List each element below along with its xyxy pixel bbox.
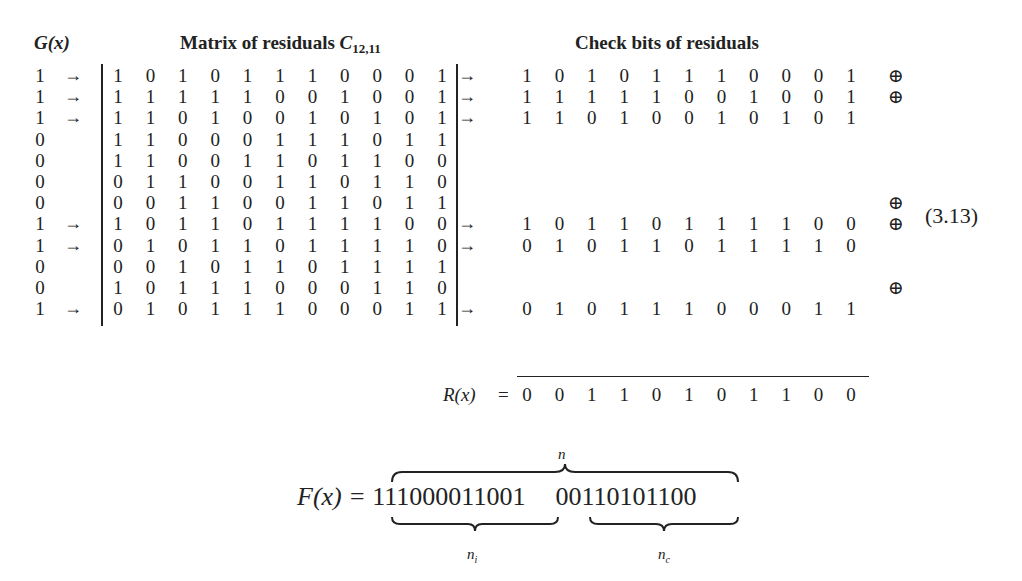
check-bit: 0 [841, 235, 861, 256]
check-bit: 1 [549, 298, 569, 319]
matrix-cell: 0 [238, 192, 258, 213]
matrix-cell: 1 [400, 277, 420, 298]
check-bit: 1 [841, 65, 861, 86]
header-check: Check bits of residuals [575, 32, 759, 54]
check-bit: 1 [809, 235, 829, 256]
matrix-cell: 0 [173, 129, 193, 150]
table-row: 1→11111001001→11111001001⊕ [0, 86, 1022, 107]
matrix-cell: 1 [108, 86, 128, 107]
matrix-cell: 0 [400, 65, 420, 86]
maps-to-arrow-icon: → [458, 86, 476, 107]
check-bit: 1 [679, 65, 699, 86]
check-bit: 1 [614, 107, 634, 128]
result-bit: 1 [744, 384, 764, 405]
check-bit: 1 [647, 86, 667, 107]
matrix-symbol: C [340, 32, 353, 53]
matrix-cell: 1 [335, 129, 355, 150]
check-bit: 0 [582, 235, 602, 256]
matrix-cell: 1 [238, 235, 258, 256]
check-bit: 0 [711, 298, 731, 319]
matrix-cell: 0 [108, 298, 128, 319]
matrix-cell: 1 [238, 277, 258, 298]
matrix-cell: 0 [140, 65, 160, 86]
matrix-cell: 1 [140, 150, 160, 171]
result-bit: 1 [582, 384, 602, 405]
matrix-cell: 0 [270, 277, 290, 298]
matrix-cell: 0 [432, 150, 452, 171]
matrix-cell: 1 [367, 277, 387, 298]
result-bit: 1 [614, 384, 634, 405]
check-bit: 1 [582, 86, 602, 107]
matrix-cell: 0 [335, 107, 355, 128]
check-bit: 0 [679, 86, 699, 107]
nc-n: n [658, 546, 666, 562]
matrix-cell: 0 [400, 86, 420, 107]
matrix-cell: 1 [108, 150, 128, 171]
check-bit: 0 [679, 107, 699, 128]
matrix-cell: 1 [108, 213, 128, 234]
matrix-cell: 0 [108, 235, 128, 256]
check-bit: 0 [809, 65, 829, 86]
matrix-cell: 0 [270, 192, 290, 213]
xor-icon: ⊕ [888, 192, 904, 213]
table-row: 010111000110⊕ [0, 277, 1022, 298]
matrix-cell: 1 [205, 213, 225, 234]
matrix-cell: 1 [302, 65, 322, 86]
g-value: 0 [30, 150, 50, 171]
check-bit: 0 [744, 65, 764, 86]
table-row: 000101101111 [0, 256, 1022, 277]
matrix-cell: 1 [367, 235, 387, 256]
matrix-cell: 0 [432, 213, 452, 234]
arrow-icon: → [64, 235, 82, 256]
underbrace-nc [588, 517, 740, 533]
matrix-cell: 1 [432, 256, 452, 277]
matrix-cell: 0 [238, 213, 258, 234]
xor-icon: ⊕ [888, 277, 904, 298]
ni-sub: i [475, 554, 478, 565]
check-bit: 0 [517, 298, 537, 319]
matrix-cell: 0 [367, 65, 387, 86]
matrix-cell: 1 [270, 213, 290, 234]
matrix-cell: 0 [173, 107, 193, 128]
check-bit: 1 [549, 86, 569, 107]
matrix-right-bar [456, 64, 458, 326]
g-value: 1 [30, 298, 50, 319]
matrix-cell: 0 [238, 129, 258, 150]
matrix-cell: 1 [270, 298, 290, 319]
g-label: G(x) [34, 32, 70, 53]
matrix-cell: 1 [205, 277, 225, 298]
matrix-cell: 1 [270, 129, 290, 150]
n-label: n [558, 446, 566, 463]
matrix-cell: 0 [173, 298, 193, 319]
matrix-cell: 1 [400, 256, 420, 277]
matrix-cell: 1 [108, 107, 128, 128]
matrix-cell: 0 [335, 171, 355, 192]
matrix-cell: 1 [335, 150, 355, 171]
matrix-cell: 0 [270, 235, 290, 256]
matrix-cell: 0 [367, 86, 387, 107]
arrow-icon: → [64, 298, 82, 319]
check-bit: 0 [549, 65, 569, 86]
maps-to-arrow-icon: → [458, 107, 476, 128]
matrix-cell: 0 [173, 235, 193, 256]
matrix-cell: 1 [432, 107, 452, 128]
result-label: R(x) [443, 384, 476, 405]
matrix-cell: 1 [432, 65, 452, 86]
matrix-cell: 0 [335, 298, 355, 319]
check-bit: 0 [711, 86, 731, 107]
matrix-cell: 0 [400, 213, 420, 234]
check-bit: 1 [582, 213, 602, 234]
matrix-cell: 0 [432, 235, 452, 256]
matrix-cell: 0 [173, 150, 193, 171]
nc-label: nc [658, 546, 670, 565]
codeword-lhs: F(x) = [297, 482, 372, 511]
matrix-cell: 0 [302, 150, 322, 171]
overbrace-n [390, 464, 740, 484]
matrix-cell: 0 [400, 150, 420, 171]
check-bit: 1 [582, 65, 602, 86]
matrix-cell: 1 [400, 192, 420, 213]
check-bit: 0 [809, 107, 829, 128]
result-bit: 1 [776, 384, 796, 405]
matrix-cell: 0 [140, 192, 160, 213]
check-bit: 1 [744, 213, 764, 234]
